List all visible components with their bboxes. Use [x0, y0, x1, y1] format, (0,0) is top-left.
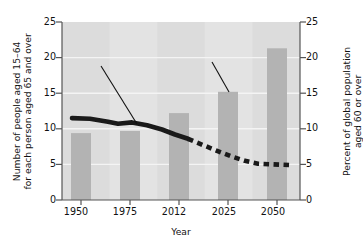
x-ticks	[81, 200, 277, 205]
bar-1975	[120, 131, 140, 200]
bar-2025	[218, 92, 238, 200]
bar-2012	[169, 113, 189, 200]
y-right-ticks	[300, 22, 306, 200]
y-left-ticks	[56, 22, 62, 200]
bar-1950	[71, 133, 91, 200]
bar-2050	[267, 48, 287, 200]
